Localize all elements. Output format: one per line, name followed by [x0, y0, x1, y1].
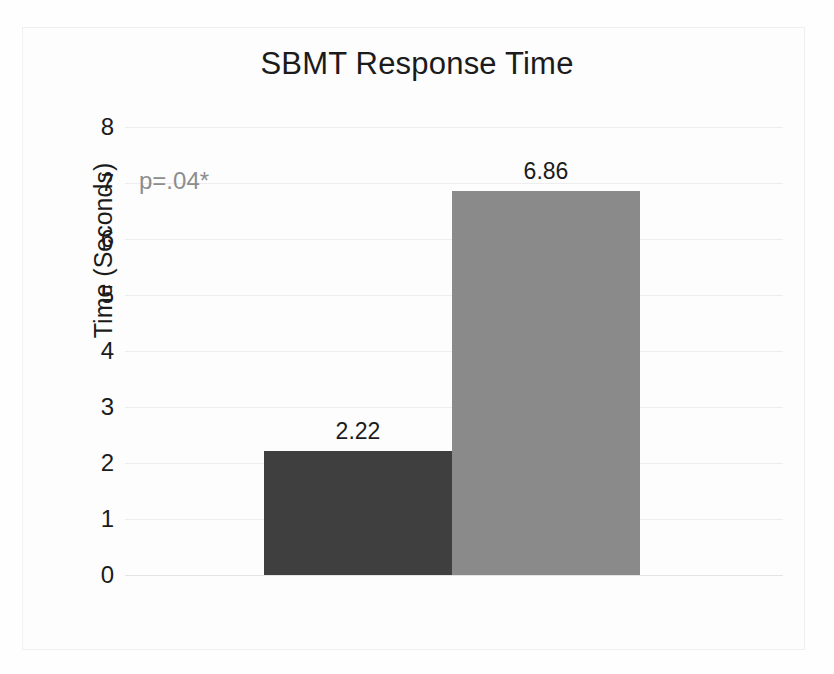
- plot-area: p=.04* 2.22 6.86 US TD: [125, 127, 783, 575]
- bar-td[interactable]: [452, 191, 640, 575]
- y-tick-label-3: 3: [80, 395, 114, 419]
- chart-title: SBMT Response Time: [0, 46, 834, 82]
- bar-value-us: 2.22: [264, 418, 452, 445]
- bar-us[interactable]: [264, 451, 452, 575]
- y-tick-label-2: 2: [80, 451, 114, 475]
- p-value-annotation: p=.04*: [139, 167, 209, 195]
- gridline-8: [125, 127, 783, 128]
- y-axis-title: Time (Seconds): [89, 126, 118, 376]
- y-tick-label-1: 1: [80, 507, 114, 531]
- chart-figure: SBMT Response Time 8 7 6 5 4 3 2 1 0 Tim…: [0, 0, 834, 674]
- y-tick-label-0: 0: [80, 563, 114, 587]
- gridline-0-baseline: [125, 575, 783, 576]
- bar-value-td: 6.86: [452, 158, 640, 185]
